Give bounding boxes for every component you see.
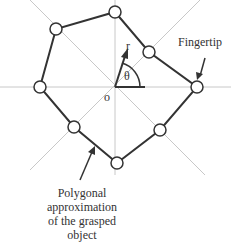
caption-arrow [80,152,92,180]
caption: Polygonal approximation of the grasped o… [40,186,124,242]
radius-label: r [126,40,130,53]
fingertip-label: Fingertip [178,36,222,49]
fingertip-node [68,121,80,133]
fingertip-node [154,124,166,136]
caption-line: Polygonal [40,186,124,200]
fingertip-arrowhead-icon [196,72,203,80]
fingertip-node [50,23,62,35]
caption-line: object [40,228,124,242]
fingertip-node [111,157,123,169]
caption-line: of the grasped [40,214,124,228]
fingertip-node [34,81,46,93]
fingertip-arrow [200,58,205,76]
theta-label: θ [124,70,130,83]
fingertip-node [109,6,121,18]
caption-line: approximation [40,200,124,214]
fingertip-node [191,81,203,93]
origin-label: o [104,91,110,104]
fingertip-node [143,46,155,58]
